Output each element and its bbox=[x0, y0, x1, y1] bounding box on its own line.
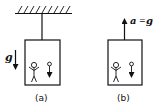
elevator-box-a bbox=[25, 40, 60, 85]
panel-a: g (a) bbox=[5, 6, 72, 103]
person-icon bbox=[111, 62, 121, 82]
accel-label-eq: = bbox=[139, 16, 146, 25]
caption-a: (a) bbox=[35, 93, 48, 103]
ceiling bbox=[15, 6, 72, 14]
accel-label-a: a bbox=[130, 15, 136, 26]
diagram-canvas: g (a) a = g bbox=[0, 0, 163, 110]
falling-ball-icon bbox=[130, 62, 134, 75]
accel-label-g: g bbox=[146, 15, 153, 26]
falling-ball-icon bbox=[48, 62, 52, 75]
caption-b: (b) bbox=[117, 93, 130, 103]
elevator-box-b bbox=[108, 40, 142, 85]
person-icon bbox=[29, 62, 39, 82]
panel-b: a = g (b) bbox=[108, 15, 153, 103]
gravity-label: g bbox=[5, 51, 13, 64]
